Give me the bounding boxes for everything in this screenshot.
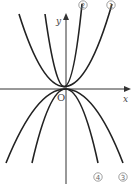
y-axis-arrow-icon bbox=[63, 13, 69, 20]
svg-text:4: 4 bbox=[96, 174, 101, 182]
curve-2 bbox=[45, 4, 82, 87]
label-curve-3: 3 bbox=[119, 173, 127, 182]
x-axis-label: x bbox=[123, 94, 128, 104]
x-axis-arrow-icon bbox=[124, 86, 131, 92]
y-axis-label: y bbox=[55, 16, 62, 26]
svg-text:1: 1 bbox=[109, 2, 113, 10]
parabola-diagram: y x O 2 1 4 3 bbox=[0, 0, 135, 184]
label-curve-4: 4 bbox=[94, 173, 102, 182]
label-curve-1: 1 bbox=[107, 1, 115, 10]
label-curve-2: 2 bbox=[79, 1, 87, 10]
origin-label: O bbox=[57, 92, 65, 103]
svg-text:3: 3 bbox=[121, 174, 125, 182]
svg-text:2: 2 bbox=[81, 2, 85, 10]
